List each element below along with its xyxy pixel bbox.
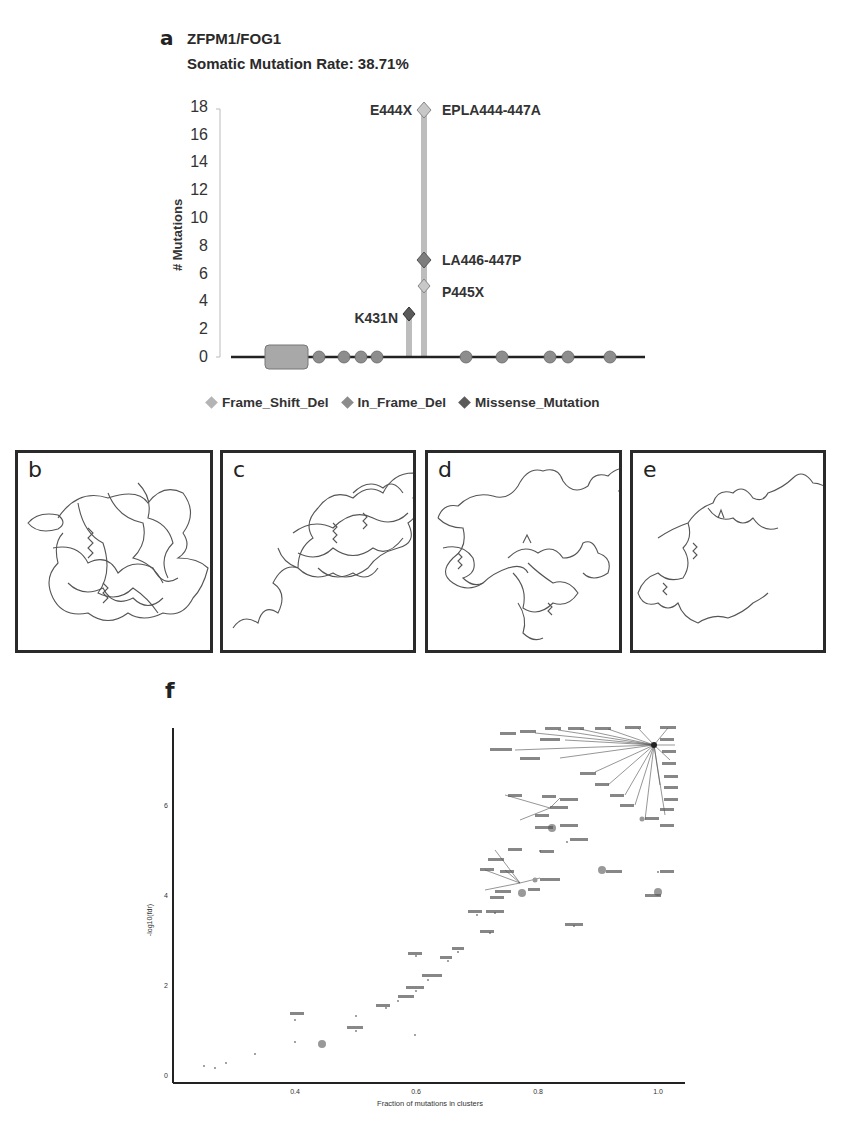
svg-text:0: 0 (199, 348, 208, 365)
lollipop-plot: 0 2 4 6 8 10 12 14 16 18 # Mutations E44… (150, 95, 670, 385)
diamond-frameshift (418, 279, 430, 293)
svg-text:6: 6 (164, 802, 168, 809)
label-p445x: P445X (442, 284, 485, 300)
diamond-frameshift-top (417, 102, 431, 118)
structure-panel-c: c (220, 450, 416, 653)
gene-title: ZFPM1/FOG1 (187, 30, 281, 47)
legend-missense: Missense_Mutation (475, 395, 600, 410)
svg-text:6: 6 (199, 265, 208, 282)
label-e444x: E444X (370, 102, 413, 118)
diamond-inframe (417, 252, 431, 268)
svg-text:0: 0 (164, 1072, 168, 1079)
lollipop-y-label: # Mutations (170, 199, 185, 271)
legend-diamond-icon (458, 396, 471, 409)
scatter-plot-f: 0 2 4 6 -log10(fdr) 0.4 0.6 0.8 1.0 Frac… (140, 720, 700, 1110)
structure-panel-d: d (425, 450, 622, 653)
protein-structure-d (428, 453, 619, 650)
svg-text:10: 10 (190, 209, 208, 226)
mutation-rate-text: Somatic Mutation Rate: 38.71% (187, 55, 409, 72)
svg-text:16: 16 (190, 126, 208, 143)
svg-text:8: 8 (199, 237, 208, 254)
structure-panel-e: e (630, 450, 826, 653)
svg-text:2: 2 (199, 320, 208, 337)
protein-domain (265, 345, 308, 369)
scatter-x-label: Fraction of mutations in clusters (377, 1099, 483, 1108)
svg-text:1.0: 1.0 (653, 1088, 663, 1095)
panel-f-letter: f (165, 678, 175, 703)
label-k431n: K431N (354, 310, 398, 326)
label-epla: EPLA444-447A (442, 102, 541, 118)
scatter-y-label: -log10(fdr) (146, 904, 154, 936)
gene-labels (290, 726, 678, 1029)
legend-diamond-icon (341, 396, 354, 409)
protein-structure-c (223, 453, 413, 650)
panel-a-letter: a (160, 26, 174, 50)
structure-panel-b: b (15, 450, 213, 653)
legend-in-frame: In_Frame_Del (358, 395, 447, 410)
label-la446: LA446-447P (442, 252, 521, 268)
svg-text:0.6: 0.6 (411, 1088, 421, 1095)
svg-text:0.8: 0.8 (533, 1088, 543, 1095)
svg-text:14: 14 (190, 153, 208, 170)
lollipop-y-ticks: 0 2 4 6 8 10 12 14 16 18 (190, 98, 208, 365)
svg-text:2: 2 (164, 982, 168, 989)
protein-structure-b (18, 453, 210, 650)
svg-text:0.4: 0.4 (290, 1088, 300, 1095)
lollipop-legend: Frame_Shift_Del In_Frame_Del Missense_Mu… (207, 395, 600, 410)
protein-structure-e (633, 453, 823, 650)
svg-text:4: 4 (164, 892, 168, 899)
diamond-missense (403, 307, 415, 321)
legend-diamond-icon (205, 396, 218, 409)
legend-frame-shift: Frame_Shift_Del (222, 395, 329, 410)
svg-text:18: 18 (190, 98, 208, 115)
svg-text:12: 12 (190, 181, 208, 198)
svg-text:4: 4 (199, 292, 208, 309)
